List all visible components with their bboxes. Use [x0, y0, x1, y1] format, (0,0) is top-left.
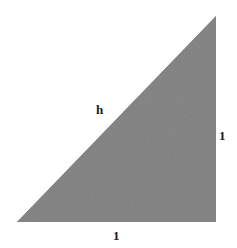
- horizontal-leg-label: 1: [113, 229, 120, 242]
- triangle-grain-overlay: [17, 16, 216, 222]
- vertical-leg-label: 1: [219, 129, 226, 142]
- figure-canvas: h 1 1: [0, 0, 237, 248]
- right-triangle-shape: [0, 0, 237, 248]
- hypotenuse-label: h: [96, 103, 103, 116]
